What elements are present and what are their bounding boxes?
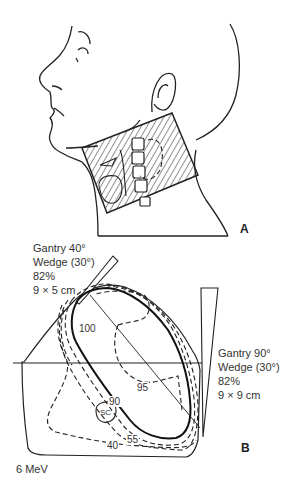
- isodose-label-90: 90: [108, 396, 121, 407]
- body-contour: [22, 285, 200, 457]
- spinal-cord-label: SC: [99, 407, 112, 418]
- beam-left-weight: 82%: [33, 269, 95, 283]
- beam-left-field-size: 9 × 5 cm: [33, 283, 95, 297]
- wedge-gantry-90: [201, 288, 218, 437]
- panel-b-label: B: [241, 441, 250, 455]
- beam-left-label: Gantry 40° Wedge (30°) 82% 9 × 5 cm: [33, 241, 95, 297]
- isodose-label-40: 40: [106, 440, 119, 451]
- isodose-label-55: 55: [126, 434, 139, 445]
- beam-right-gantry: Gantry 90°: [218, 346, 280, 360]
- beam-right-weight: 82%: [218, 374, 280, 388]
- isodose-label-100: 100: [78, 323, 97, 334]
- isodose-55: [60, 286, 199, 450]
- beam-right-wedge: Wedge (30°): [218, 360, 280, 374]
- beam-right-field-size: 9 × 9 cm: [218, 388, 280, 402]
- isodose-label-95: 95: [136, 382, 149, 393]
- beam-right-label: Gantry 90° Wedge (30°) 82% 9 × 9 cm: [218, 346, 280, 402]
- energy-label: 6 MeV: [16, 462, 48, 476]
- panel-a-label: A: [240, 222, 249, 236]
- beam-left-wedge: Wedge (30°): [33, 255, 95, 269]
- beam-left-gantry: Gantry 40°: [33, 241, 95, 255]
